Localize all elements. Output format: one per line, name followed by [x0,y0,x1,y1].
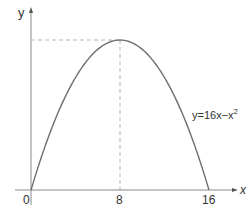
parabola-chart: y x 0 8 16 y=16x−x2 [0,0,252,219]
y-axis-label: y [18,5,25,20]
function-label: y=16x−x2 [192,107,239,121]
y-axis-arrow-icon [29,7,33,13]
x-axis-label: x [239,183,247,197]
x-tick-16: 16 [202,193,216,207]
x-tick-8: 8 [116,193,123,207]
x-tick-0: 0 [23,193,30,207]
x-axis-arrow-icon [232,188,238,192]
